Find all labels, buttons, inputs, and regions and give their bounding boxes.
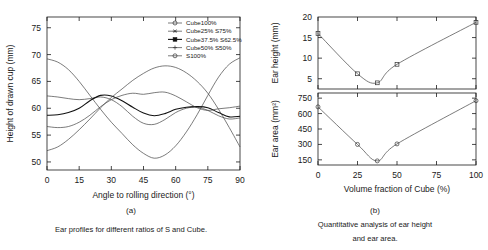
legend-label: Cube100%	[186, 19, 217, 26]
y-tick-label: 20	[303, 12, 313, 22]
x-tick-label: 90	[235, 175, 245, 185]
x-tick-label: 30	[107, 175, 117, 185]
x-tick-label: 45	[139, 175, 149, 185]
y-tick-label: 450	[298, 124, 312, 134]
y-tick-label: 300	[298, 139, 312, 149]
panel-a-series-group	[47, 58, 240, 158]
panel-b-subplot-bottom: 150300450600750	[298, 93, 478, 165]
panel-a-caption: Ear profiles for different ratios of S a…	[0, 218, 262, 236]
y-tick-label: 15	[303, 33, 313, 43]
y-tick-label: 75	[32, 23, 42, 33]
figure-container: 0153045607590505560657075Angle to rollin…	[0, 0, 488, 250]
y-tick-label: 65	[32, 76, 42, 86]
legend-item-cube25--s75-: Cube25% S75%	[168, 27, 232, 34]
panel-b-xlabel: Volume fraction of Cube (%)	[344, 184, 450, 194]
x-tick-label: 0	[316, 170, 321, 180]
y-tick-label: 60	[32, 103, 42, 113]
panel-b-subplot-top: 5101520	[303, 12, 478, 89]
legend-label: Cube50% S50%	[186, 44, 232, 51]
y-tick-label: 750	[298, 93, 312, 103]
y-tick-label: 150	[298, 155, 312, 165]
panel-b-chart: 5101520Ear height (mm)150300450600750Ear…	[262, 3, 488, 195]
legend-label: Cube37.5% S62.5%	[186, 36, 242, 43]
y-tick-label: 55	[32, 130, 42, 140]
legend-item-cube37-5--s62-5-: Cube37.5% S62.5%	[168, 36, 242, 43]
y-tick-label: 70	[32, 50, 42, 60]
legend-marker	[173, 38, 177, 42]
x-tick-label: 25	[353, 170, 363, 180]
data-curve	[318, 22, 476, 83]
legend-label: Cube25% S75%	[186, 27, 232, 34]
legend-marker	[173, 46, 177, 50]
panel-b-caption: Quantitative analysis of ear height and …	[262, 216, 488, 244]
plot-frame	[318, 17, 476, 89]
legend-item-cube50--s50-: Cube50% S50%	[168, 44, 232, 51]
panel-a-ylabel: Height of drawn cup (mm)	[5, 44, 15, 142]
legend-marker	[173, 30, 177, 33]
x-tick-label: 0	[45, 175, 50, 185]
series-cube100-	[47, 58, 240, 158]
y-tick-label: 600	[298, 109, 312, 119]
y-tick-label: 10	[303, 53, 313, 63]
panel-a-id: (a)	[0, 199, 262, 217]
x-tick-label: 75	[432, 170, 442, 180]
legend-label: S100%	[186, 52, 206, 59]
panel-a-legend: Cube100%Cube25% S75%Cube37.5% S62.5%Cube…	[168, 19, 242, 59]
x-tick-label: 100	[469, 170, 483, 180]
panel-a-chart: 0153045607590505560657075Angle to rollin…	[0, 0, 262, 200]
legend-item-s100-: S100%	[168, 52, 206, 59]
x-tick-label: 50	[392, 170, 402, 180]
y-tick-label: 50	[32, 157, 42, 167]
y-tick-label: 5	[307, 74, 312, 84]
data-curve	[318, 101, 476, 161]
panel-b-ylabel-bottom: Ear area (mm²)	[270, 100, 280, 158]
x-tick-label: 60	[171, 175, 181, 185]
x-tick-label: 75	[203, 175, 213, 185]
x-tick-label: 15	[74, 175, 84, 185]
panel-b-ylabel-top: Ear height (mm)	[270, 22, 280, 83]
panel-b-id: (b)	[262, 199, 488, 217]
plot-frame	[318, 93, 476, 165]
series-s100-	[47, 66, 240, 151]
